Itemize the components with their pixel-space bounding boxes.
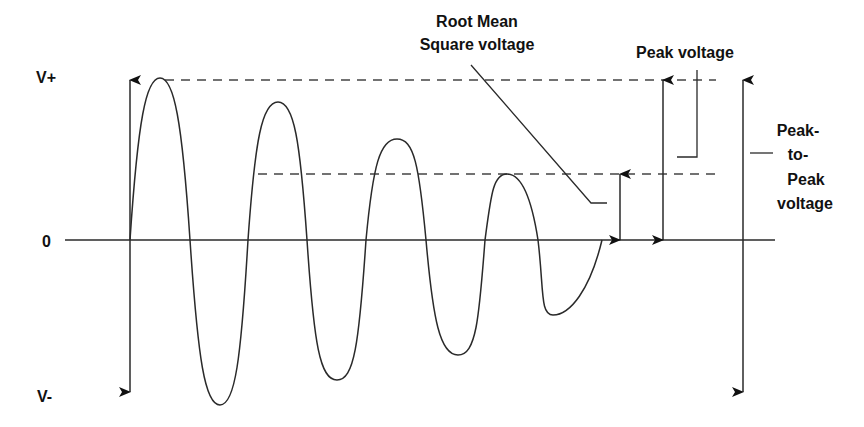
peak-leader-line — [677, 70, 697, 157]
v-plus-label: V+ — [36, 69, 56, 86]
v-minus-label: V- — [37, 388, 52, 405]
rms-label-line1: Root Mean — [436, 13, 518, 30]
rms-leader-line — [471, 65, 607, 203]
p2p-label-line2: to- — [788, 146, 808, 163]
peak-voltage-label: Peak voltage — [636, 44, 734, 61]
voltage-diagram: V+ 0 V- Root Mean Square voltage Peak vo… — [0, 0, 864, 427]
rms-label-line2: Square voltage — [420, 36, 535, 53]
p2p-label-line3: Peak — [787, 171, 824, 188]
damped-sine-waveform — [130, 78, 602, 405]
p2p-label-line1: Peak- — [777, 122, 820, 139]
p2p-label-line4: voltage — [777, 195, 833, 212]
zero-label: 0 — [42, 233, 51, 250]
